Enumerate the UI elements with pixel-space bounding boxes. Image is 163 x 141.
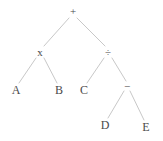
tree-node-root: + xyxy=(70,6,76,17)
tree-edge-root-to-mul xyxy=(44,18,69,46)
tree-node-d: D xyxy=(101,119,110,131)
tree-node-b: B xyxy=(55,84,63,96)
tree-node-c: C xyxy=(80,84,88,96)
tree-edge-root-to-div xyxy=(77,18,105,46)
expression-tree-figure: +x÷ABC−DE xyxy=(0,0,163,141)
tree-edge-mul-to-b xyxy=(44,58,57,83)
tree-edges xyxy=(0,0,163,141)
tree-node-a: A xyxy=(12,84,21,96)
tree-edge-div-to-c xyxy=(87,58,104,83)
edge-group xyxy=(19,18,144,120)
tree-node-e: E xyxy=(142,121,149,133)
tree-node-mul: x xyxy=(37,47,43,58)
tree-edge-sub-to-e xyxy=(130,91,144,120)
tree-node-div: ÷ xyxy=(105,47,111,58)
tree-edge-mul-to-a xyxy=(19,58,36,83)
tree-edge-sub-to-d xyxy=(108,91,124,118)
tree-edge-div-to-sub xyxy=(112,58,126,81)
tree-node-sub: − xyxy=(124,81,130,92)
